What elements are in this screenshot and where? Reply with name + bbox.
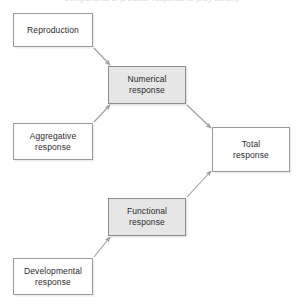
node-aggregative-response[interactable]: Aggregative response <box>13 123 93 160</box>
node-functional-response-label: Functional response <box>125 206 169 228</box>
node-developmental-response[interactable]: Developmental response <box>13 258 93 295</box>
diagram-canvas: Components of predator response to prey … <box>0 0 303 305</box>
clipped-caption-text: Components of predator response to prey … <box>0 0 303 3</box>
node-total-response-label: Total response <box>231 139 271 161</box>
node-developmental-response-label: Developmental response <box>22 266 84 288</box>
edge-developmental-to-functional <box>94 237 110 257</box>
edge-numerical-to-total <box>187 105 211 128</box>
node-reproduction[interactable]: Reproduction <box>13 13 93 47</box>
node-functional-response[interactable]: Functional response <box>108 198 186 236</box>
edge-aggregative-to-numerical <box>94 105 110 122</box>
edge-reproduction-to-numerical <box>94 48 110 65</box>
node-reproduction-label: Reproduction <box>25 25 81 36</box>
node-numerical-response[interactable]: Numerical response <box>108 66 186 104</box>
node-numerical-response-label: Numerical response <box>125 74 168 96</box>
node-total-response[interactable]: Total response <box>212 127 290 172</box>
node-aggregative-response-label: Aggregative response <box>28 131 78 153</box>
edge-functional-to-total <box>187 171 211 197</box>
